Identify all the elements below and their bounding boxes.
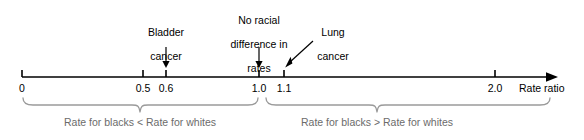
axis-arrowhead-icon <box>546 72 558 82</box>
brace-blacks-less-than-whites <box>23 98 258 112</box>
annotation-label-no-racial-difference-line2: difference in <box>212 38 306 50</box>
brace-label-blacks-greater-than-whites: Rate for blacks > Rate for whites <box>277 116 477 128</box>
annotation-label-lung-cancer-line1: Lung <box>305 26 361 38</box>
axis-title-rate-ratio: Rate ratio <box>519 82 565 94</box>
tick-label-0-6: 0.6 <box>152 82 180 94</box>
annotation-label-bladder-cancer-line1: Bladder <box>131 26 201 38</box>
brace-label-blacks-less-than-whites: Rate for blacks < Rate for whites <box>40 116 240 128</box>
brace-blacks-greater-than-whites <box>266 98 550 112</box>
tick-label-1-1: 1.1 <box>270 82 298 94</box>
rate-ratio-number-line-figure: Bladder cancer No racial difference in r… <box>0 0 584 140</box>
annotation-label-no-racial-difference: No racial difference in rates <box>212 2 306 86</box>
tick-label-1-0: 1.0 <box>245 82 273 94</box>
annotation-label-bladder-cancer-line2: cancer <box>131 50 201 62</box>
annotation-label-no-racial-difference-line1: No racial <box>212 14 306 26</box>
annotation-label-lung-cancer-line2: cancer <box>305 50 361 62</box>
annotation-label-bladder-cancer: Bladder cancer <box>131 14 201 74</box>
tick-label-2-0: 2.0 <box>481 82 509 94</box>
annotation-label-lung-cancer: Lung cancer <box>305 14 361 74</box>
annotation-label-no-racial-difference-line3: rates <box>212 62 306 74</box>
tick-label-0: 0 <box>8 82 36 94</box>
